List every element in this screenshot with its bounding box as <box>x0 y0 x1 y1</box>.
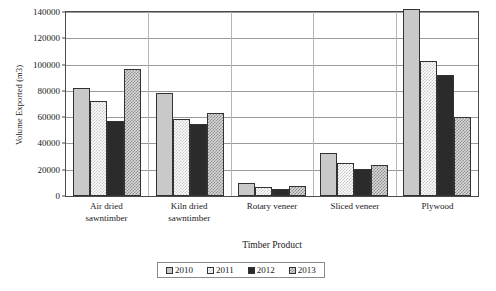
legend-swatch-icon <box>248 267 255 274</box>
chart-legend: 2010201120122013 <box>157 262 325 278</box>
legend-item[interactable]: 2010 <box>166 265 193 275</box>
bar <box>337 163 354 196</box>
x-axis-category-label: Kiln driedsawntimber <box>148 200 231 224</box>
bar <box>173 119 190 196</box>
x-axis-category-label-line: Plywood <box>396 200 479 212</box>
bar <box>207 113 224 196</box>
bar <box>289 186 306 196</box>
bar-group <box>313 12 395 196</box>
bar <box>90 101 107 196</box>
bar <box>371 165 388 196</box>
legend-item[interactable]: 2012 <box>248 265 275 275</box>
x-axis-category-label: Plywood <box>396 200 479 224</box>
legend-item-label: 2010 <box>175 265 193 275</box>
legend-item[interactable]: 2013 <box>289 265 316 275</box>
legend-item-label: 2013 <box>298 265 316 275</box>
bar <box>437 75 454 196</box>
legend-swatch-icon <box>207 267 214 274</box>
bar <box>238 183 255 196</box>
legend-item[interactable]: 2011 <box>207 265 234 275</box>
bar-group <box>396 12 478 196</box>
bar <box>124 69 141 196</box>
x-axis-category-labels: Air driedsawntimberKiln driedsawntimberR… <box>65 200 479 224</box>
x-axis-title: Timber Product <box>65 240 479 250</box>
plot-area: 020000400006000080000100000120000140000 <box>65 11 479 197</box>
bar <box>156 93 173 196</box>
x-axis-category-label: Sliced veneer <box>313 200 396 224</box>
x-axis-category-label-line: Air dried <box>65 200 148 212</box>
bar <box>73 88 90 196</box>
x-axis-category-label-line: sawntimber <box>65 212 148 224</box>
legend-swatch-icon <box>289 267 296 274</box>
bar-group <box>231 12 313 196</box>
legend-item-label: 2011 <box>216 265 234 275</box>
bar <box>420 61 437 196</box>
bar <box>320 153 337 196</box>
x-axis-category-label-line: Rotary veneer <box>231 200 314 212</box>
bar <box>354 169 371 196</box>
bar <box>272 189 289 196</box>
x-axis-category-label-line: Sliced veneer <box>313 200 396 212</box>
bar <box>107 121 124 196</box>
x-axis-category-label: Rotary veneer <box>231 200 314 224</box>
bar <box>454 117 471 197</box>
bar-group <box>66 12 148 196</box>
bar-group <box>148 12 230 196</box>
bar-chart: Volume Exported (m3) 0200004000060000800… <box>0 0 496 291</box>
y-axis-title: Volume Exported (m3) <box>14 20 24 190</box>
x-axis-category-label-line: sawntimber <box>148 212 231 224</box>
bar-groups <box>66 12 478 196</box>
x-axis-category-label-line: Kiln dried <box>148 200 231 212</box>
bar <box>190 124 207 196</box>
legend-swatch-icon <box>166 267 173 274</box>
x-axis-category-label: Air driedsawntimber <box>65 200 148 224</box>
bar <box>255 187 272 196</box>
bar <box>403 9 420 196</box>
legend-item-label: 2012 <box>257 265 275 275</box>
